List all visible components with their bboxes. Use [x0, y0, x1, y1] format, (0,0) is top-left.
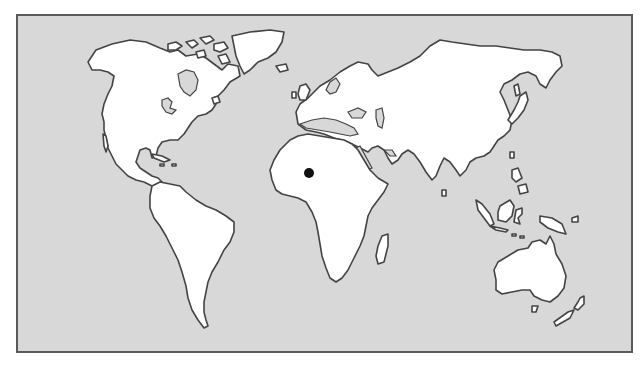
landmass-japan	[508, 92, 528, 124]
landmass-africa	[270, 134, 388, 282]
landmass-java	[490, 226, 508, 232]
landmass-australia	[494, 236, 566, 302]
landmass-newfoundland	[212, 96, 220, 104]
landmass-new-guinea	[540, 216, 566, 234]
landmass-philippines	[512, 168, 528, 194]
landmass-sulawesi	[514, 208, 522, 224]
landmass-sakhalin	[514, 84, 520, 96]
landmass-madagascar	[376, 234, 388, 264]
landmass-taiwan	[510, 152, 514, 158]
landmass-borneo	[498, 200, 514, 222]
landmass-new-zealand	[554, 296, 584, 326]
world-map	[0, 0, 643, 366]
landmass-south-america	[150, 182, 234, 328]
caspian-sea	[376, 108, 384, 128]
location-marker	[304, 168, 314, 178]
landmass-british-isles	[292, 84, 310, 100]
landmass-iceland	[276, 64, 288, 72]
landmass-india-sri-lanka	[442, 190, 446, 196]
landmass-sumatra	[476, 200, 494, 226]
landmass-tasmania	[532, 306, 538, 312]
landmass-caribbean-islands	[160, 164, 176, 166]
landmass-cuba	[152, 154, 170, 162]
